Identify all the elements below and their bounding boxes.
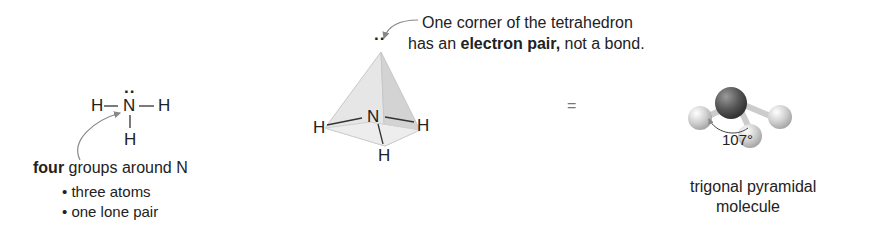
tetra-h-bottom: H (378, 146, 390, 166)
annotation-line-1: One corner of the tetrahedron (422, 12, 645, 33)
tetra-lone-pair: ·· (374, 29, 385, 49)
tetra-h-left: H (313, 118, 325, 138)
tetra-h-right: H (417, 116, 429, 136)
tetra-n: N (367, 107, 379, 127)
lewis-bullet-list: • three atoms • one lone pair (62, 182, 158, 222)
lewis-arrow-icon (78, 113, 120, 160)
tetrahedron-shape (325, 52, 420, 146)
lewis-caption: four groups around N (33, 159, 188, 177)
caption-line-2: molecule (690, 197, 806, 217)
bullet-item: • three atoms (62, 182, 158, 202)
angle-label: 107° (722, 131, 753, 148)
caption-line-1: trigonal pyramidal (690, 177, 806, 197)
lewis-caption-bold: four (33, 159, 64, 176)
lewis-h-bottom: H (124, 130, 136, 150)
lewis-caption-rest: groups around N (64, 159, 188, 176)
bullet-item: • one lone pair (62, 202, 158, 222)
equals-sign: = (567, 97, 576, 115)
ball-stick-caption: trigonal pyramidal molecule (690, 177, 806, 217)
tetra-annotation: One corner of the tetrahedron has an ele… (422, 12, 645, 54)
annotation-line-2: has an electron pair, not a bond. (408, 33, 645, 54)
lewis-h-left: H (91, 96, 103, 116)
lewis-n: N (123, 96, 135, 116)
lewis-h-right: H (158, 96, 170, 116)
